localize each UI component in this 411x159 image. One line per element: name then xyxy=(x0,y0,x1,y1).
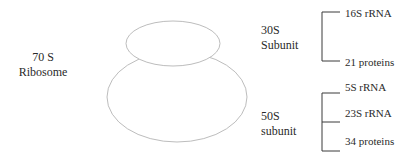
large-subunit-label: 50S subunit xyxy=(261,109,296,139)
ribosome-label-line1: 70 S xyxy=(14,50,72,65)
small-subunit-label-line2: Subunit xyxy=(261,38,298,53)
large-subunit-component-2: 23S rRNA xyxy=(345,107,392,120)
large-subunit-component-1: 5S rRNA xyxy=(345,81,386,94)
large-subunit-component-3: 34 proteins xyxy=(345,135,394,148)
small-subunit-shape xyxy=(126,21,220,66)
large-subunit-bracket xyxy=(322,93,340,151)
ribosome-label: 70 S Ribosome xyxy=(14,50,72,80)
small-subunit-component-1: 16S rRNA xyxy=(345,7,392,20)
small-subunit-bracket xyxy=(322,12,340,61)
small-subunit-component-2: 21 proteins xyxy=(345,56,394,69)
large-subunit-label-line2: subunit xyxy=(261,124,296,139)
small-subunit-label: 30S Subunit xyxy=(261,23,298,53)
small-subunit-label-line1: 30S xyxy=(261,23,298,38)
large-subunit-label-line1: 50S xyxy=(261,109,296,124)
ribosome-label-line2: Ribosome xyxy=(14,65,72,80)
